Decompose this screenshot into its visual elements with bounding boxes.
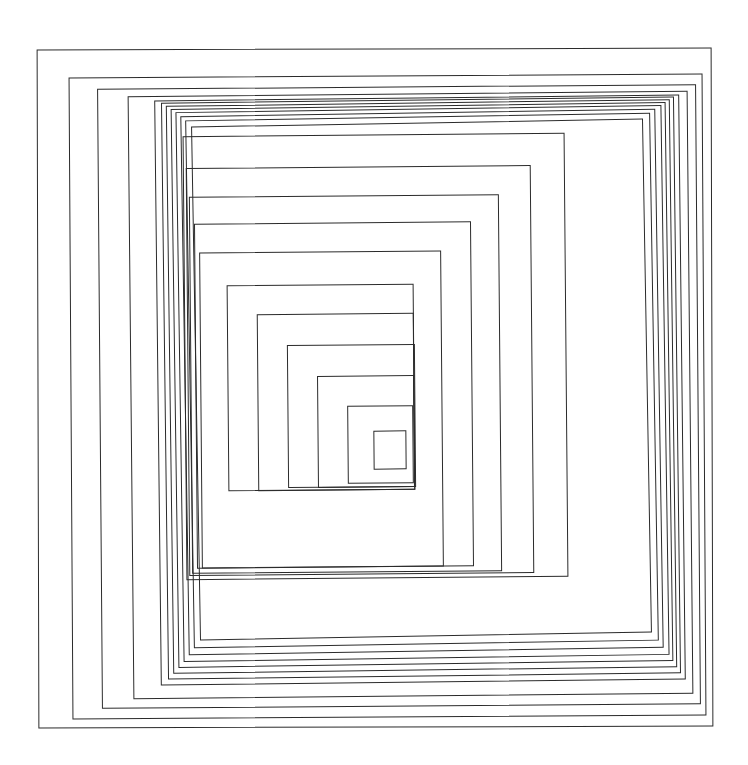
- figure-canvas: Nested concentric rectangles: [0, 0, 748, 765]
- nested-rectangles-figure: Nested concentric rectangles: [0, 0, 748, 765]
- figure-background: [0, 0, 748, 765]
